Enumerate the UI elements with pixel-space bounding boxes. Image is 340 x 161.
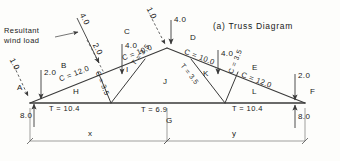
truss-diagram-figure: (a) Truss Diagram Resultant wind load 4.… bbox=[0, 0, 340, 161]
member-label-chord-left: T = 10.4 bbox=[49, 105, 80, 113]
member-label-chord-center: T = 6.9 bbox=[141, 106, 167, 114]
space-label-L: L bbox=[252, 88, 257, 96]
load-label-at-K: 4.0 bbox=[221, 50, 233, 58]
space-label-I: I bbox=[126, 66, 129, 74]
load-label-at-A-vertical: 2.0 bbox=[44, 69, 56, 77]
reaction-label-right: 8.0 bbox=[298, 113, 310, 121]
joint-label-F: F bbox=[310, 88, 315, 96]
load-label-at-apex: 4.0 bbox=[174, 16, 186, 24]
space-label-B: B bbox=[61, 62, 67, 70]
space-label-J: J bbox=[163, 78, 167, 86]
figure-title: (a) Truss Diagram bbox=[213, 22, 293, 31]
dimension-label-y: y bbox=[232, 130, 236, 138]
space-label-H: H bbox=[73, 88, 79, 96]
load-label-at-F: 2.0 bbox=[298, 72, 310, 80]
space-label-G: G bbox=[166, 117, 173, 125]
dimension-label-x: x bbox=[88, 130, 92, 138]
space-label-E: E bbox=[252, 64, 258, 72]
resultant-wind-load-caption: Resultant wind load bbox=[4, 26, 39, 46]
space-label-D: D bbox=[190, 34, 196, 42]
space-label-K: K bbox=[203, 70, 209, 78]
joint-label-A: A bbox=[17, 84, 23, 92]
space-label-C: C bbox=[124, 28, 130, 36]
reaction-label-left: 8.0 bbox=[20, 112, 32, 120]
member-label-chord-right: T = 10.4 bbox=[232, 105, 263, 113]
